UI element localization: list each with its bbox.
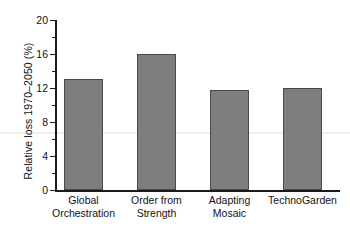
x-axis-line: [55, 190, 340, 192]
y-tick-label: 8: [42, 116, 48, 128]
tick-mark: [50, 122, 55, 123]
y-tick-label: 20: [36, 14, 48, 26]
cat-line: TechnoGarden: [260, 194, 345, 207]
y-minor-tick-14: [52, 71, 55, 72]
bar-adapting-mosaic[interactable]: [210, 90, 249, 190]
y-tick-label: 4: [42, 150, 48, 162]
y-axis-line: [55, 20, 57, 190]
y-minor-tick-10: [52, 105, 55, 106]
tick-mark: [50, 88, 55, 89]
bar-order-from-strength[interactable]: [137, 54, 176, 190]
cat-line: Strength: [116, 207, 197, 220]
bar-global-orchestration[interactable]: [64, 79, 103, 190]
cat-line: Adapting: [189, 194, 270, 207]
bar-chart: Relative loss 1970–2050 (%) 0 4 8 12 16 …: [0, 0, 350, 237]
cat-line: Global: [43, 194, 124, 207]
y-tick-label: 12: [36, 82, 48, 94]
plot-area: 0 4 8 12 16 20: [55, 20, 340, 190]
tick-mark: [50, 54, 55, 55]
tick-mark: [50, 156, 55, 157]
bar-technogarden[interactable]: [283, 88, 322, 190]
x-category-label-global-orchestration: Global Orchestration: [43, 194, 124, 219]
cat-line: Orchestration: [43, 207, 124, 220]
x-category-label-order-from-strength: Order from Strength: [116, 194, 197, 219]
cat-line: Mosaic: [189, 207, 270, 220]
y-axis-title: Relative loss 1970–2050 (%): [22, 16, 34, 206]
y-minor-tick-2: [52, 173, 55, 174]
y-minor-tick-18: [52, 37, 55, 38]
tick-mark: [50, 190, 55, 191]
tick-mark: [50, 20, 55, 21]
x-category-label-adapting-mosaic: Adapting Mosaic: [189, 194, 270, 219]
x-category-label-technogarden: TechnoGarden: [260, 194, 345, 207]
y-tick-label: 16: [36, 48, 48, 60]
y-minor-tick-6: [52, 139, 55, 140]
cat-line: Order from: [116, 194, 197, 207]
